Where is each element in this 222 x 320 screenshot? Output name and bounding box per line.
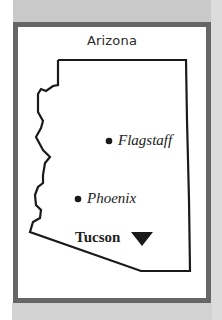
phoenix-dot-icon [75, 196, 82, 203]
city-label-phoenix: Phoenix [87, 190, 136, 207]
city-label-tucson: Tucson [75, 229, 120, 246]
city-label-flagstaff: Flagstaff [118, 132, 172, 149]
tucson-down-triangle-icon [131, 232, 153, 246]
state-map [0, 0, 222, 320]
flagstaff-dot-icon [106, 138, 113, 145]
